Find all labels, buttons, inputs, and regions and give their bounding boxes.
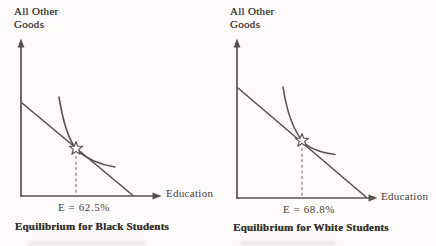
y-axis-label-line1: All Other: [230, 5, 275, 18]
equilibrium-label: E = 62.5%: [58, 201, 110, 214]
x-axis-label: Education: [166, 187, 213, 200]
cropped-text-artifact: [240, 241, 336, 246]
cropped-text-artifact: [28, 241, 146, 246]
y-axis-label-line2: Goods: [230, 18, 260, 31]
y-axis-arrow-icon: [234, 39, 241, 48]
x-axis-arrow-icon: [369, 195, 378, 202]
equilibrium-label: E = 68.8%: [283, 203, 335, 216]
y-axis-label-line1: All Other: [14, 5, 59, 18]
panel-black-students: All Other Goods Education E = 62.5% Equi…: [0, 0, 218, 246]
panel-white-students: All Other Goods Education E = 68.8% Equi…: [218, 0, 436, 246]
x-axis-label: Education: [381, 190, 428, 203]
y-axis-arrow-icon: [18, 39, 25, 48]
x-axis-arrow-icon: [153, 193, 162, 200]
panel-title: Equilibrium for Black Students: [15, 220, 169, 233]
y-axis-label-line2: Goods: [14, 18, 44, 31]
equilibrium-figure: All Other Goods Education E = 62.5% Equi…: [0, 0, 436, 246]
panel-title: Equilibrium for White Students: [233, 221, 389, 234]
indifference-curve: [283, 87, 335, 155]
